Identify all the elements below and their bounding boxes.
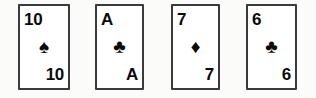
playing-card-ace-of-clubs[interactable]: A ♣ A [95,4,144,90]
club-icon: ♣ [248,37,295,56]
card-rank-top-left: 7 [177,11,186,28]
playing-card-10-of-spades[interactable]: 10 ♠ 10 [18,4,70,90]
card-rank-bottom-right: 7 [205,66,214,83]
card-rank-bottom-right: 6 [282,66,291,83]
club-icon: ♣ [97,37,142,56]
spade-icon: ♠ [20,37,68,56]
card-rank-top-left: 6 [252,11,261,28]
card-rank-top-left: A [101,11,113,28]
playing-card-row: 10 ♠ 10 A ♣ A 7 ♦ 7 6 ♣ 6 [0,0,316,98]
playing-card-6-of-clubs[interactable]: 6 ♣ 6 [246,4,297,90]
card-rank-top-left: 10 [24,11,42,28]
playing-card-7-of-diamonds[interactable]: 7 ♦ 7 [171,4,220,90]
diamond-icon: ♦ [173,37,218,56]
card-rank-bottom-right: A [126,66,138,83]
card-rank-bottom-right: 10 [46,66,64,83]
